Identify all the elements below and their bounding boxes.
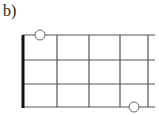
fret-lines [57, 35, 148, 107]
fretboard-diagram [0, 0, 159, 115]
finger-marker [129, 102, 139, 112]
finger-marker [35, 30, 45, 40]
